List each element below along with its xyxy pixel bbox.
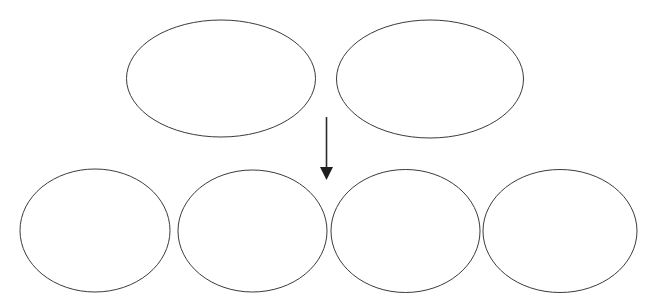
bottom-row-group	[20, 169, 637, 293]
cell-division-diagram	[0, 0, 656, 305]
downward-arrow	[320, 117, 333, 180]
arrow-head	[320, 167, 333, 180]
bottom-cell-4	[483, 170, 637, 293]
bottom-cell-2	[178, 170, 327, 292]
top-cell-2	[337, 20, 524, 138]
bottom-cell-1	[20, 169, 170, 292]
diagram-canvas	[0, 0, 656, 305]
top-cell-1	[127, 20, 316, 137]
top-row-group	[127, 20, 524, 138]
bottom-cell-3	[331, 170, 480, 293]
